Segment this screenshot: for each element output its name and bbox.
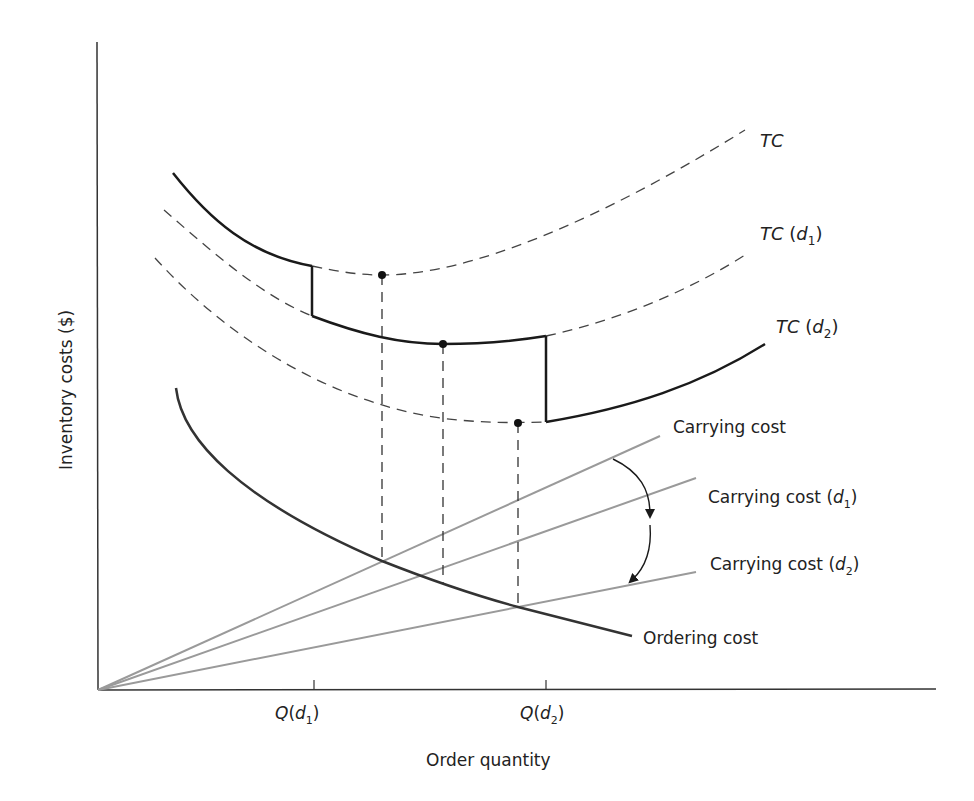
label-carrying-cost-d2: Carrying cost (d2) — [710, 554, 859, 578]
carrying-cost-d2-line — [98, 572, 696, 690]
label-ordering-cost: Ordering cost — [643, 628, 759, 648]
tc-d1-curve-solid — [312, 316, 546, 344]
tc-d1-curve-dashed-left — [164, 210, 312, 316]
y-axis — [97, 42, 98, 690]
y-axis-label: Inventory costs ($) — [56, 310, 76, 470]
tick-label-q-d1: Q(d1) — [275, 703, 319, 727]
x-axis-label: Order quantity — [426, 750, 551, 770]
label-carrying-cost: Carrying cost — [673, 417, 786, 437]
x-axis — [98, 689, 936, 690]
carrying-cost-line — [98, 436, 660, 690]
tc-curve-solid — [173, 173, 312, 266]
tc-d1-curve-dashed-right — [546, 255, 745, 336]
label-carrying-cost-d1: Carrying cost (d1) — [708, 487, 857, 511]
tc-curve-dashed — [312, 130, 745, 275]
inventory-cost-chart: TC TC (d1) TC (d2) Carrying cost Carryin… — [0, 0, 974, 801]
tc-d2-curve-dashed — [155, 258, 546, 423]
tick-label-q-d2: Q(d2) — [520, 703, 564, 727]
rotation-arrow-2 — [632, 525, 650, 580]
label-tc: TC — [760, 130, 784, 151]
label-tc-d2: TC (d2) — [776, 316, 838, 341]
tc-d1-min-dot — [439, 340, 447, 348]
carrying-cost-d1-line — [98, 478, 696, 690]
tc-min-dot — [378, 271, 386, 279]
tc-d2-curve-solid — [546, 344, 765, 422]
tc-d2-min-dot — [514, 419, 522, 427]
label-tc-d1: TC (d1) — [760, 223, 822, 248]
